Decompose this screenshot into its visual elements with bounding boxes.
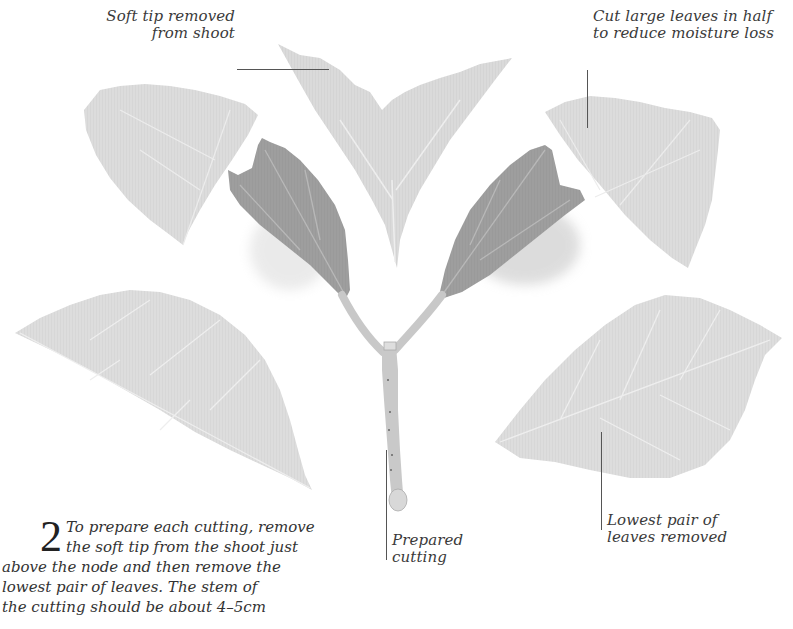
right-petiole: [395, 295, 442, 350]
leader-line-lowest-pair: [601, 432, 602, 530]
step-instructions: 2 To prepare each cutting, remove the so…: [40, 517, 300, 617]
step-line: the soft tip from the shoot just: [40, 537, 300, 557]
label-prepared-cutting: Prepared cutting: [392, 532, 463, 566]
removed-leaf-bottom-right: [495, 295, 782, 478]
step-number: 2: [40, 519, 62, 555]
leader-line-prepared-cutting: [386, 450, 387, 560]
leader-line-cut-leaves: [587, 70, 588, 128]
step-line: the cutting should be about 4–5cm: [2, 597, 300, 617]
label-lowest-pair-removed: Lowest pair of leaves removed: [607, 512, 727, 546]
leader-line-soft-tip: [237, 69, 329, 70]
step-line: lowest pair of leaves. The stem of: [2, 577, 300, 597]
label-cut-large-leaves: Cut large leaves in half to reduce moist…: [593, 8, 774, 42]
label-soft-tip-removed: Soft tip removed from shoot: [100, 8, 235, 42]
cut-leaf-top-left: [84, 84, 258, 245]
step-line: To prepare each cutting, remove: [40, 517, 300, 537]
step-line: above the node and then remove the: [2, 557, 300, 577]
left-petiole: [342, 295, 383, 352]
removed-leaf-bottom-left: [15, 290, 312, 490]
